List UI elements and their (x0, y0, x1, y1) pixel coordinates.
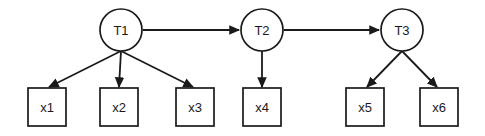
arrow-t1-x1 (49, 51, 121, 87)
latent-node-t3[interactable]: T3 (381, 9, 423, 51)
observed-label-x3: x3 (188, 100, 202, 115)
observed-label-x2: x2 (112, 100, 126, 115)
latent-node-t1[interactable]: T1 (100, 9, 142, 51)
observed-node-x1[interactable]: x1 (28, 88, 66, 126)
observed-label-x4: x4 (255, 100, 269, 115)
observed-label-x1: x1 (40, 100, 54, 115)
path-diagram-canvas: T1T2T3x1x2x3x4x5x6 (0, 0, 485, 136)
observed-node-x3[interactable]: x3 (176, 88, 214, 126)
edge-t3-x5 (367, 51, 402, 87)
edge-t1-x3 (121, 51, 193, 87)
observed-node-x4[interactable]: x4 (243, 88, 281, 126)
observed-label-x6: x6 (432, 100, 446, 115)
edge-t3-x6 (402, 51, 437, 87)
arrow-t1-x3 (121, 51, 193, 87)
observed-node-x2[interactable]: x2 (100, 88, 138, 126)
arrow-t3-x5 (367, 51, 402, 87)
edge-t1-x1 (49, 51, 121, 87)
arrow-t1-x2 (119, 51, 121, 87)
nodes-layer: T1T2T3x1x2x3x4x5x6 (28, 9, 458, 126)
observed-node-x5[interactable]: x5 (346, 88, 384, 126)
edge-t1-x2 (119, 51, 121, 87)
latent-label-t1: T1 (113, 23, 128, 38)
diagram-svg: T1T2T3x1x2x3x4x5x6 (0, 0, 485, 136)
latent-label-t2: T2 (254, 23, 269, 38)
observed-label-x5: x5 (358, 100, 372, 115)
arrow-t3-x6 (402, 51, 437, 87)
latent-label-t3: T3 (394, 23, 409, 38)
observed-node-x6[interactable]: x6 (420, 88, 458, 126)
latent-node-t2[interactable]: T2 (241, 9, 283, 51)
